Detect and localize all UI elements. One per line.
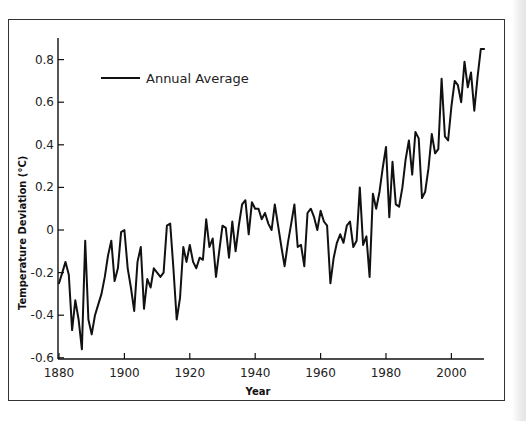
y-tick-label: -0.2 [31, 266, 54, 280]
x-tick-label: 1900 [109, 366, 140, 380]
y-axis-title: Temperature Deviation (°C) [17, 156, 28, 310]
annual-average-line [59, 49, 484, 349]
y-tick-label: 0.8 [35, 53, 54, 67]
y-ticks: 0.80.60.40.20-0.2-0.4-0.6 [31, 53, 64, 365]
line-chart: 0.80.60.40.20-0.2-0.4-0.6 18801900192019… [0, 0, 526, 421]
x-axis-title: Year [245, 386, 271, 397]
legend: Annual Average [101, 71, 249, 86]
y-tick-label: 0 [46, 223, 54, 237]
x-tick-label: 1940 [240, 366, 271, 380]
x-tick-label: 1920 [175, 366, 206, 380]
x-tick-label: 1980 [371, 366, 402, 380]
x-tick-label: 1880 [44, 366, 75, 380]
y-tick-label: 0.4 [35, 138, 54, 152]
legend-label: Annual Average [146, 71, 249, 86]
x-tick-label: 1960 [305, 366, 336, 380]
y-tick-label: -0.6 [31, 351, 54, 365]
y-tick-label: -0.4 [31, 308, 54, 322]
y-tick-label: 0.2 [35, 180, 54, 194]
x-tick-label: 2000 [436, 366, 467, 380]
y-tick-label: 0.6 [35, 95, 54, 109]
x-ticks: 1880190019201940196019802000 [44, 353, 467, 380]
